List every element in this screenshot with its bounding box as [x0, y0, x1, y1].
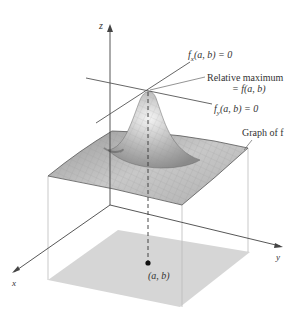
- relative-maximum-label: Relative maximum: [207, 72, 284, 83]
- z-axis-label: z: [98, 20, 103, 31]
- domain-floor: [48, 230, 250, 307]
- relative-maximum-diagram: z x y fx(a, b) = 0 Relative maximum = f(…: [0, 0, 303, 312]
- x-axis-arrow-icon: [12, 266, 20, 273]
- y-axis-arrow-icon: [274, 243, 283, 248]
- fy-annotation: fy(a, b) = 0: [214, 103, 258, 117]
- graph-of-f-label: Graph of f: [242, 127, 284, 138]
- point-ab-marker: [145, 260, 150, 265]
- point-ab-label: (a, b): [148, 270, 170, 282]
- x-axis-label: x: [11, 278, 16, 288]
- relative-maximum-value: = f(a, b): [232, 83, 266, 95]
- fx-annotation: fx(a, b) = 0: [188, 49, 232, 63]
- y-axis-label: y: [275, 252, 280, 262]
- z-axis-arrow-icon: [107, 24, 113, 32]
